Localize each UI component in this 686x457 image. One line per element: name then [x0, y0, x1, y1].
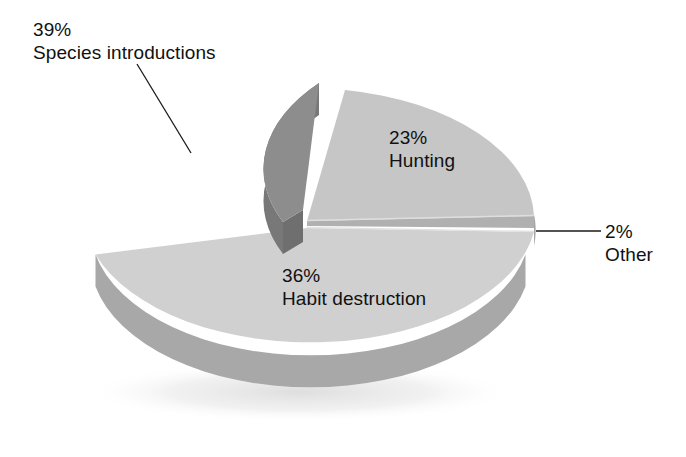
- callout-other-category: Other: [605, 243, 653, 266]
- callout-other: 2% Other: [605, 220, 653, 266]
- callout-hunting: 23% Hunting: [389, 126, 455, 172]
- callout-other-percent: 2%: [605, 220, 653, 243]
- callout-hunting-category: Hunting: [389, 149, 455, 172]
- leader-line-species-introductions: [137, 64, 191, 153]
- slice-species-introductions-top: [263, 83, 319, 222]
- callout-species-introductions: 39% Species introductions: [33, 18, 216, 64]
- callout-habit-destruction: 36% Habit destruction: [282, 264, 426, 310]
- callout-habit-destruction-category: Habit destruction: [282, 287, 426, 310]
- callout-hunting-percent: 23%: [389, 126, 455, 149]
- callout-species-introductions-category: Species introductions: [33, 41, 216, 64]
- callout-species-introductions-percent: 39%: [33, 18, 216, 41]
- pie-chart-figure: 39% Species introductions 23% Hunting 2%…: [0, 0, 686, 457]
- pie-chart-svg: [0, 0, 686, 457]
- slice-hunting-side: [534, 214, 536, 246]
- callout-habit-destruction-percent: 36%: [282, 264, 426, 287]
